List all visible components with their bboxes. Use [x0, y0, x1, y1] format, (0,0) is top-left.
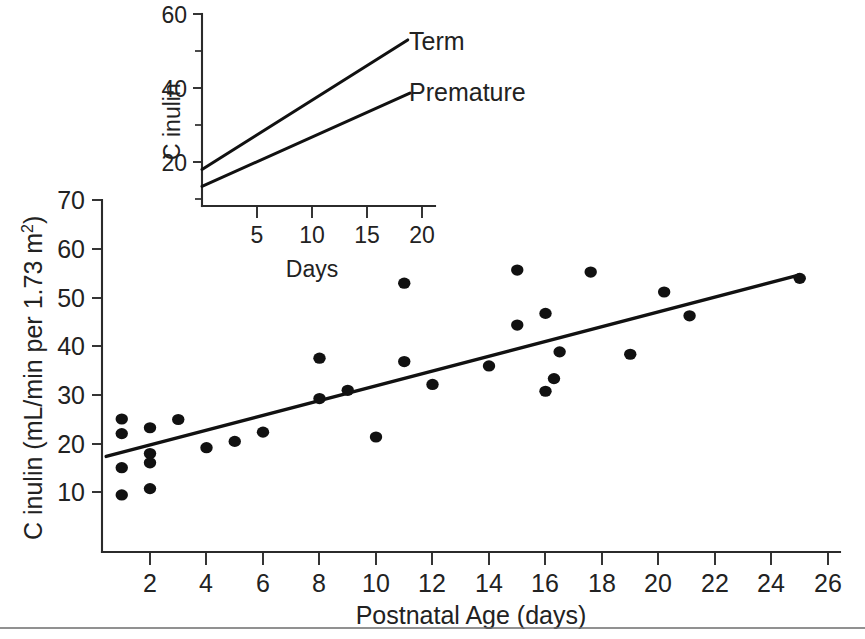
inset-x-tick-10: 10 [299, 206, 325, 248]
inset-x-tick-label-5: 5 [251, 222, 264, 248]
main-x-tick-label-12: 12 [418, 569, 446, 597]
main-y-tick-60: 60 [57, 235, 102, 263]
main-x-tick-label-24: 24 [757, 569, 785, 597]
main-y-ticks: 70 60 50 40 30 [57, 186, 102, 506]
inset-line-term [202, 40, 408, 170]
main-x-tick-label-8: 8 [312, 569, 326, 597]
main-x-tick-18: 18 [588, 552, 616, 597]
main-y-tick-20: 20 [57, 430, 102, 458]
data-point [116, 428, 128, 439]
data-point [200, 442, 212, 453]
figure-root: 70 60 50 40 30 [0, 0, 865, 639]
main-y-tick-label-50: 50 [57, 284, 85, 312]
main-y-tick-10: 10 [57, 478, 102, 506]
main-x-tick-24: 24 [757, 552, 785, 597]
data-point [683, 310, 695, 321]
main-x-tick-8: 8 [312, 552, 326, 597]
data-point [658, 286, 670, 297]
inset-series-label-term: Term [409, 27, 465, 55]
inset-x-tick-15: 15 [354, 206, 380, 248]
main-y-tick-label-10: 10 [57, 478, 85, 506]
inset-y-tick-60: 60 [161, 2, 202, 28]
inset-y-axis-title: C inulin [159, 83, 185, 160]
main-y-tick-70: 70 [57, 186, 102, 214]
main-x-tick-6: 6 [256, 552, 270, 597]
data-point [539, 308, 551, 319]
main-y-tick-label-30: 30 [57, 381, 85, 409]
main-x-axis-title: Postnatal Age (days) [356, 601, 587, 629]
inset-x-tick-label-15: 15 [354, 222, 380, 248]
inset-x-ticks: 5 10 15 20 [251, 206, 435, 248]
main-x-tick-14: 14 [475, 552, 503, 597]
data-point [144, 483, 156, 494]
main-x-tick-label-4: 4 [199, 569, 213, 597]
inset-line-premature [202, 93, 410, 186]
main-y-tick-30: 30 [57, 381, 102, 409]
data-point [116, 413, 128, 424]
data-point [144, 422, 156, 433]
data-point [624, 349, 636, 360]
main-y-axis-title-tail: ) [19, 216, 47, 224]
main-y-tick-label-20: 20 [57, 430, 85, 458]
main-x-ticks: 2 4 6 8 10 [143, 552, 842, 597]
data-point [229, 436, 241, 447]
inset-chart: 60 40 20 5 [159, 2, 526, 282]
data-point [539, 386, 551, 397]
data-point [116, 462, 128, 473]
data-point [398, 356, 410, 367]
data-point [398, 278, 410, 289]
data-point [257, 427, 269, 438]
main-x-tick-label-2: 2 [143, 569, 157, 597]
main-y-tick-label-70: 70 [57, 186, 85, 214]
inset-x-tick-5: 5 [251, 206, 264, 248]
main-y-axis-title-superscript: 2 [19, 224, 36, 233]
data-point [511, 264, 523, 275]
inset-x-tick-20: 20 [409, 206, 435, 248]
data-point [313, 393, 325, 404]
inset-x-axis-title: Days [286, 256, 338, 282]
data-point [426, 379, 438, 390]
main-y-tick-40: 40 [57, 332, 102, 360]
main-x-tick-label-22: 22 [701, 569, 729, 597]
main-x-tick-label-18: 18 [588, 569, 616, 597]
data-point [794, 273, 806, 284]
main-chart: 70 60 50 40 30 [19, 186, 842, 629]
main-y-tick-label-60: 60 [57, 235, 85, 263]
main-x-tick-label-14: 14 [475, 569, 503, 597]
data-point [313, 353, 325, 364]
data-point [172, 414, 184, 425]
data-point [585, 266, 597, 277]
main-y-axis-title-base: C inulin (mL/min per 1.73 m [19, 233, 47, 540]
data-point [548, 373, 560, 384]
main-y-tick-label-40: 40 [57, 332, 85, 360]
main-x-tick-label-26: 26 [814, 569, 842, 597]
data-point [483, 360, 495, 371]
data-point [553, 346, 565, 357]
main-y-tick-50: 50 [57, 284, 102, 312]
main-y-axis-title: C inulin (mL/min per 1.73 m2) [19, 216, 47, 540]
main-x-tick-label-16: 16 [531, 569, 559, 597]
main-x-tick-22: 22 [701, 552, 729, 597]
inset-x-tick-label-10: 10 [299, 222, 325, 248]
figure-canvas: 70 60 50 40 30 [0, 0, 865, 639]
data-point [342, 385, 354, 396]
inset-x-tick-label-20: 20 [409, 222, 435, 248]
main-x-tick-10: 10 [362, 552, 390, 597]
main-x-tick-label-6: 6 [256, 569, 270, 597]
data-point [144, 457, 156, 468]
data-point [370, 431, 382, 442]
inset-series-label-premature: Premature [409, 78, 526, 106]
data-point [511, 319, 523, 330]
main-x-tick-label-20: 20 [644, 569, 672, 597]
main-x-tick-2: 2 [143, 552, 157, 597]
main-x-tick-4: 4 [199, 552, 213, 597]
regression-line [106, 275, 800, 457]
inset-y-tick-label-60: 60 [161, 2, 187, 28]
data-point [116, 489, 128, 500]
main-x-tick-20: 20 [644, 552, 672, 597]
main-x-tick-26: 26 [814, 552, 842, 597]
main-x-tick-12: 12 [418, 552, 446, 597]
main-x-tick-16: 16 [531, 552, 559, 597]
main-x-tick-label-10: 10 [362, 569, 390, 597]
